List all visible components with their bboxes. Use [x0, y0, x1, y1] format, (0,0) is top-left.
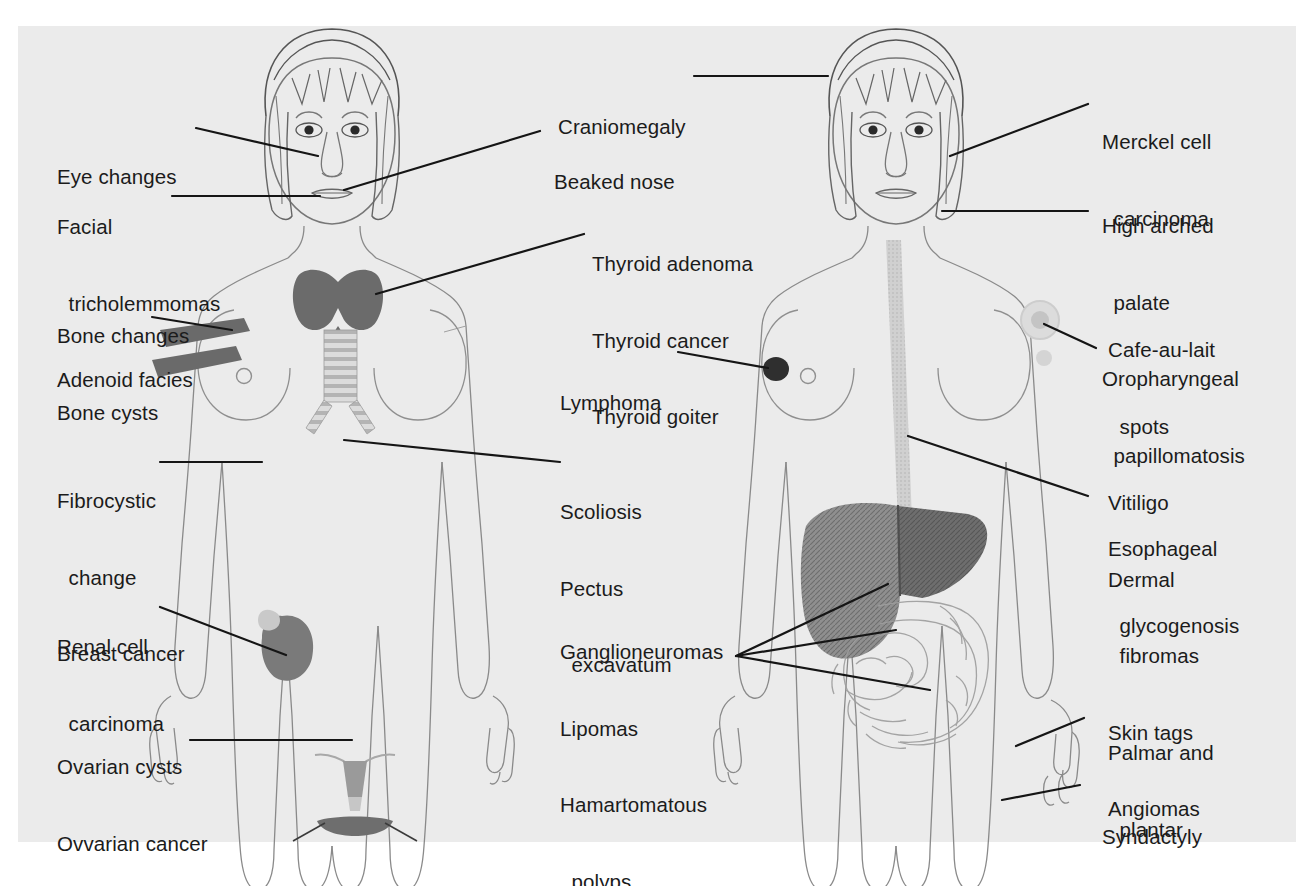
- label-esophageal-glycogenosis: Esophageal glycogenosis: [1108, 485, 1239, 689]
- kidney-organ: [258, 610, 313, 681]
- uterus-and-bladder-organ: [293, 755, 417, 841]
- leader-beaked-nose: [344, 131, 540, 190]
- leader-eye-changes: [196, 128, 318, 156]
- label-gastrointestinal: Ganglioneuromas Lipomas Hamartomatous po…: [560, 588, 723, 886]
- esophagus-organ: [886, 240, 912, 522]
- leader-merckel: [950, 104, 1088, 156]
- leader-scoliosis: [344, 440, 560, 462]
- label-syndactyly: Syndactyly: [1102, 773, 1202, 886]
- leader-palmar: [1016, 718, 1084, 746]
- cowden-syndrome-diagram: Eye changes Facial tricholemmomas Adenoi…: [0, 0, 1314, 886]
- leader-gi-3: [736, 656, 930, 690]
- lymphoma-node-marker: [763, 357, 789, 381]
- leader-thyroid: [376, 234, 584, 294]
- right-figure-hands: [714, 696, 1079, 805]
- trachea-organ: [306, 330, 375, 434]
- leader-esophageal: [908, 436, 1088, 496]
- liver-organ: [801, 503, 987, 659]
- label-ovarian-uterine: Ovarian cysts Ovvarian cancer Uterine ca…: [57, 703, 208, 886]
- leader-syndactyly: [1002, 785, 1080, 800]
- cafe-au-lait-spots-organ: [1021, 301, 1059, 366]
